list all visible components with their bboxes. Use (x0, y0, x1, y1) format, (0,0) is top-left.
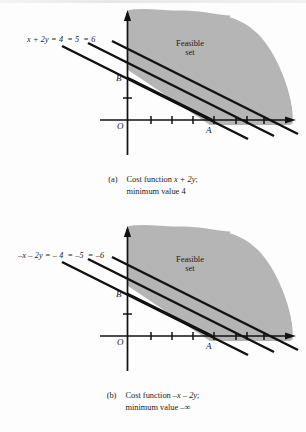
level-label-neg6-b: = –6 (88, 251, 104, 260)
feasible-set-label-b: Feasible set (176, 255, 204, 274)
level-label-neg4-b: –x – 2y = – 4 (18, 251, 63, 260)
caption-line1-a: Cost function x + 2y; (127, 174, 198, 186)
figure-panel-a: x + 2y = 4= 5= 6 Feasible set B O A (a) … (0, 0, 306, 216)
origin-label-a: O (117, 122, 124, 131)
feasible-set-label-a: Feasible set (176, 39, 204, 58)
level-label-5-a: = 5 (67, 35, 79, 44)
feasible-set-label-line1-b: Feasible (176, 255, 204, 264)
panel-tag-a: (a) (108, 174, 117, 186)
caption-suffix-a: ; (195, 175, 197, 184)
caption-minvalue-b: –∞ (180, 403, 190, 412)
caption-line2-a: minimum value 4 (127, 186, 198, 198)
feasible-region-shape-a (128, 10, 292, 125)
caption-line1-b: Cost function –x – 2y; (125, 390, 199, 402)
equation-label-a: x + 2y = 4= 5= 6 (27, 36, 95, 44)
level-label-neg5-b: = –5 (67, 251, 83, 260)
plot-area-b (0, 216, 306, 381)
caption-prefix-b: Cost function (125, 391, 172, 400)
caption-expression-b: –x – 2y (173, 391, 197, 400)
level-label-4-a: x + 2y = 4 (27, 35, 63, 44)
caption-prefix-a: Cost function (127, 175, 174, 184)
figure-panel-b: –x – 2y = – 4= –5= –6 Feasible set B O A… (0, 216, 306, 432)
caption-minvalue-prefix-b: minimum value (125, 403, 180, 412)
panel-caption-b: (b) Cost function –x – 2y; minimum value… (0, 390, 306, 413)
plot-area-a (0, 0, 306, 165)
feasible-region-shape-b (128, 226, 292, 341)
feasible-set-label-line1-a: Feasible (176, 39, 204, 48)
feasible-set-label-line2-a: set (176, 48, 204, 57)
panel-tag-b: (b) (107, 390, 117, 402)
equation-label-b: –x – 2y = – 4= –5= –6 (18, 252, 104, 260)
vertex-label-a-b: A (206, 342, 212, 351)
panel-caption-a: (a) Cost function x + 2y; minimum value … (0, 174, 306, 197)
caption-expression-a: x + 2y (174, 175, 195, 184)
vertex-label-a-a: A (206, 126, 212, 135)
origin-label-b: O (117, 338, 124, 347)
feasible-set-label-line2-b: set (176, 264, 204, 273)
caption-suffix-b: ; (197, 391, 199, 400)
vertex-label-b-b: B (116, 290, 122, 299)
level-label-6-a: = 6 (83, 35, 95, 44)
vertex-label-b-a: B (116, 74, 122, 83)
caption-line2-b: minimum value –∞ (125, 402, 199, 414)
